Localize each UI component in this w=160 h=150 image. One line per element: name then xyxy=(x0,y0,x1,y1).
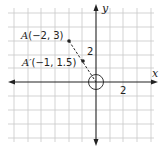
point-a-prime xyxy=(81,59,85,63)
point-a-label: A(−2, 3) xyxy=(21,31,64,41)
point-a-prime-label: A′(−1, 1.5) xyxy=(22,58,76,68)
x-axis-label: x xyxy=(152,68,158,79)
y-tick-label: 2 xyxy=(87,47,93,57)
graph-svg xyxy=(0,0,160,150)
x-tick-label: 2 xyxy=(120,86,126,96)
point-a xyxy=(67,39,71,43)
point-a-coords: (−2, 3) xyxy=(28,30,63,41)
coordinate-plane: y x 2 2 A(−2, 3) A′(−1, 1.5) xyxy=(0,0,160,150)
point-a-prime-name: A′ xyxy=(22,57,32,68)
x-axis xyxy=(8,80,158,85)
point-a-prime-coords: (−1, 1.5) xyxy=(32,57,77,68)
y-axis-label: y xyxy=(102,3,108,14)
grid xyxy=(8,8,154,142)
